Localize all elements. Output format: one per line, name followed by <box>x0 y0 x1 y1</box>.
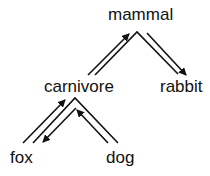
node-rabbit: rabbit <box>160 78 203 95</box>
edge-carnivore-to-mammal <box>88 34 129 75</box>
edge-mammal-to-rabbit <box>147 33 186 75</box>
edge-fox-to-carnivore <box>23 100 65 143</box>
taxonomy-tree-diagram: mammal carnivore rabbit fox dog <box>0 0 210 176</box>
node-mammal: mammal <box>108 6 173 23</box>
node-fox: fox <box>10 149 33 166</box>
node-carnivore: carnivore <box>44 78 114 95</box>
edge-dog-to-carnivore <box>77 110 108 143</box>
node-dog: dog <box>106 149 134 166</box>
edge-carnivore-to-fox <box>43 108 76 142</box>
